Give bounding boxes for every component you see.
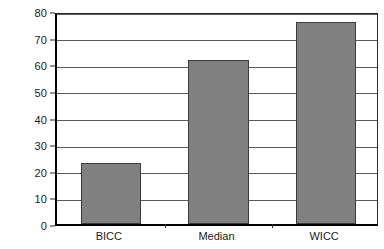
bar-slot bbox=[165, 14, 273, 224]
x-axis: BICCMedianWICC bbox=[55, 230, 378, 249]
y-tick-40: 40 bbox=[35, 114, 55, 125]
y-tick-70: 70 bbox=[35, 34, 55, 45]
y-tick-label: 70 bbox=[35, 34, 47, 45]
bar-slot bbox=[57, 14, 165, 224]
y-tick-label: 30 bbox=[35, 141, 47, 152]
y-tick-50: 50 bbox=[35, 87, 55, 98]
x-tick-mark bbox=[165, 224, 166, 228]
x-tick-label-bicc: BICC bbox=[55, 230, 163, 243]
bar-chart: 01020304050607080Days BICCMedianWICC bbox=[0, 0, 384, 249]
bar-median[interactable] bbox=[188, 60, 248, 224]
bar-wicc[interactable] bbox=[296, 22, 356, 224]
plot-area bbox=[55, 13, 378, 226]
y-tick-30: 30 bbox=[35, 141, 55, 152]
y-tick-label: 60 bbox=[35, 61, 47, 72]
y-tick-0: 0 bbox=[41, 221, 55, 232]
y-tick-label: 80 bbox=[35, 8, 47, 19]
bar-slot bbox=[272, 14, 380, 224]
y-tick-label: 0 bbox=[41, 221, 47, 232]
x-tick-label-wicc: WICC bbox=[270, 230, 378, 243]
bars-layer bbox=[57, 14, 377, 224]
y-tick-10: 10 bbox=[35, 194, 55, 205]
x-tick-label-median: Median bbox=[163, 230, 271, 243]
x-tick-mark bbox=[272, 224, 273, 228]
bar-bicc[interactable] bbox=[81, 163, 141, 224]
y-tick-label: 40 bbox=[35, 114, 47, 125]
y-tick-label: 50 bbox=[35, 87, 47, 98]
y-tick-label: 20 bbox=[35, 167, 47, 178]
y-tick-60: 60 bbox=[35, 61, 55, 72]
y-axis: 01020304050607080Days bbox=[0, 0, 55, 249]
y-tick-label: 10 bbox=[35, 194, 47, 205]
y-tick-80: 80 bbox=[35, 8, 55, 19]
y-tick-20: 20 bbox=[35, 167, 55, 178]
